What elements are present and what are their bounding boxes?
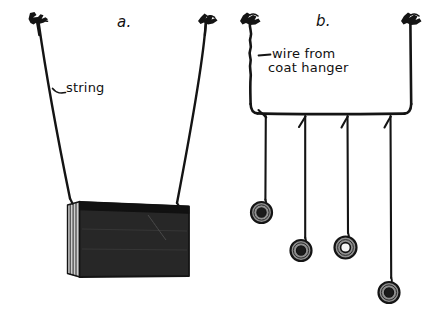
figure-canvas: a. string b. wire from coat hanger xyxy=(0,0,443,317)
string-label: string xyxy=(66,81,105,95)
hanging-unit-4 xyxy=(379,116,400,303)
panel-a-letter: a. xyxy=(117,14,131,30)
panel-a-group xyxy=(29,12,218,277)
washer-2 xyxy=(291,240,312,261)
wire-right-vertical xyxy=(410,24,411,104)
hanging-unit-1 xyxy=(251,110,272,223)
diagram-svg xyxy=(0,0,443,317)
washer-1 xyxy=(251,202,272,223)
wire-label-line-2: coat hanger xyxy=(268,61,349,75)
wire-left-vertical xyxy=(250,23,252,104)
panel-b-letter: b. xyxy=(316,13,331,29)
string-leader-line xyxy=(53,89,66,94)
hook-icon-a-right xyxy=(198,14,218,36)
wire-label-line-1: wire from xyxy=(272,47,336,61)
washer-3 xyxy=(335,237,357,259)
hanging-unit-3 xyxy=(335,116,357,259)
wire-left-corner xyxy=(251,104,258,113)
book-object xyxy=(68,202,190,278)
wire-crossbar xyxy=(258,113,405,114)
washer-4 xyxy=(379,282,400,303)
wire-label-leader xyxy=(259,55,271,56)
book-pages xyxy=(68,202,81,278)
string-left-a xyxy=(39,23,70,199)
wire-right-corner xyxy=(405,104,412,114)
hanging-unit-2 xyxy=(291,116,312,261)
string-right-a xyxy=(177,22,206,203)
